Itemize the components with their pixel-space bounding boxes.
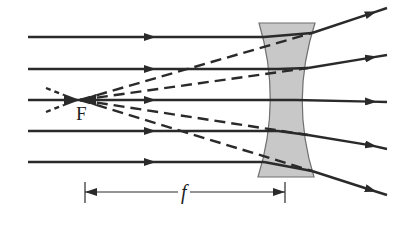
refracted-ray-5-arrow-seg xyxy=(312,171,371,190)
refracted-ray-1-arrow-seg xyxy=(312,13,371,33)
refracted-ray-2-arrow-seg xyxy=(308,58,371,68)
refracted-ray-4 xyxy=(371,145,387,149)
dashed-stub-left-2 xyxy=(46,105,64,112)
refracted-ray-5 xyxy=(371,190,387,195)
dashed-stub-left-1 xyxy=(46,88,64,95)
refracted-ray-2 xyxy=(371,55,387,58)
in-lens-ray-2 xyxy=(278,68,308,69)
diverging-lens-diagram: F f xyxy=(0,0,412,227)
focal-point-label: F xyxy=(76,103,87,125)
focal-length-label: f xyxy=(178,181,190,204)
refracted-ray-3-arrow-seg xyxy=(296,100,371,102)
refracted-ray-1 xyxy=(371,8,387,13)
diagram-canvas xyxy=(0,0,412,227)
refracted-ray-4-arrow-seg xyxy=(308,135,371,145)
